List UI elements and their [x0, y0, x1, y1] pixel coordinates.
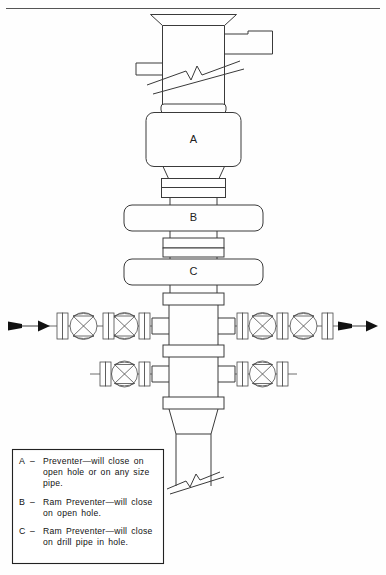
- flange-above-annular: [161, 104, 226, 113]
- ram-preventer-upper-label: B: [190, 211, 198, 223]
- flange: [103, 313, 114, 339]
- flange: [237, 313, 248, 339]
- valve-run-lower-right: [235, 361, 297, 387]
- flange: [139, 313, 150, 339]
- connector-c-to-spool: [170, 285, 217, 293]
- gate-valve[interactable]: [290, 313, 317, 340]
- ram-preventer-lower: C: [124, 259, 263, 285]
- valve-run-lower-left: [90, 361, 152, 387]
- bop-stack-diagram: A B C: [0, 0, 386, 575]
- flange: [322, 313, 333, 339]
- riser-break-symbol: [147, 61, 244, 94]
- riser-body: [163, 26, 225, 105]
- flange: [139, 362, 150, 386]
- gate-valve[interactable]: [249, 313, 276, 340]
- legend-box-outline: [13, 450, 164, 564]
- flow-arrow-left: [8, 321, 50, 332]
- page-canvas: A B C: [0, 0, 386, 575]
- gate-valve[interactable]: [70, 313, 97, 340]
- spool-a-b: [162, 179, 226, 206]
- taper-below-annular: [163, 167, 225, 179]
- drilling-spool-lower: [152, 357, 235, 409]
- flange: [237, 362, 248, 386]
- ram-preventer-upper: B: [124, 205, 263, 231]
- gate-valve[interactable]: [250, 361, 276, 387]
- valve-run-upper-right: [235, 313, 343, 340]
- annular-preventer: A: [146, 113, 241, 167]
- spool-b-c: [163, 231, 224, 259]
- fill-line-outlet-left: [136, 63, 163, 75]
- gate-valve[interactable]: [112, 361, 138, 387]
- flange: [277, 362, 288, 386]
- flange: [57, 313, 68, 339]
- bell-nipple: [151, 15, 237, 26]
- flow-line-outlet-right: [225, 31, 273, 54]
- annular-preventer-label: A: [190, 133, 198, 145]
- valve-run-upper-left: [44, 313, 152, 340]
- flow-arrow-right: [338, 321, 378, 332]
- ram-preventer-lower-label: C: [189, 265, 197, 277]
- casing-head: [169, 409, 218, 459]
- flange: [100, 362, 111, 386]
- gate-valve[interactable]: [111, 313, 138, 340]
- flange: [277, 313, 288, 339]
- drilling-spool-upper: [152, 293, 235, 357]
- casing-pipe: [176, 459, 211, 486]
